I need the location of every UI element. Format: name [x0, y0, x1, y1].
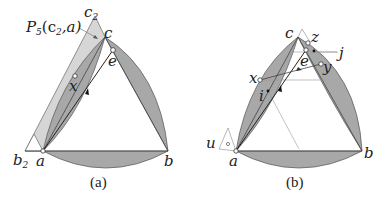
label-x: x	[69, 77, 78, 95]
label-e: e	[300, 52, 309, 70]
panel-b: a b c e z j y x i u (b)	[206, 24, 374, 191]
panel-a: a b c e x c2 b2 P5(c2,a) (a)	[13, 3, 174, 191]
caption-a: (a)	[90, 174, 107, 191]
label-e: e	[108, 52, 117, 70]
label-c: c	[285, 24, 294, 42]
point-u	[226, 142, 229, 145]
label-c2: c2	[84, 3, 98, 22]
label-i: i	[259, 87, 264, 105]
annotation-p5: P5(c2,a)	[25, 18, 82, 37]
edge-ac	[236, 37, 298, 151]
label-j: j	[336, 44, 344, 62]
label-b: b	[364, 144, 374, 162]
label-y: y	[322, 58, 332, 76]
point-z	[306, 41, 310, 45]
label-b: b	[164, 152, 174, 170]
label-z: z	[310, 28, 319, 46]
point-i	[267, 90, 270, 93]
figure: a b c e x c2 b2 P5(c2,a) (a)	[0, 0, 387, 202]
label-u: u	[206, 134, 216, 152]
label-a: a	[36, 152, 45, 170]
lens-ab	[43, 151, 168, 168]
label-c: c	[104, 24, 113, 42]
label-b2: b2	[13, 151, 29, 170]
u-wedge	[219, 128, 236, 151]
diagonal-line	[268, 91, 299, 149]
label-a: a	[229, 152, 238, 170]
lens-ab	[236, 151, 362, 168]
point-j	[313, 50, 316, 53]
point-x	[258, 78, 262, 82]
caption-b: (b)	[286, 174, 304, 191]
label-x: x	[249, 69, 258, 87]
